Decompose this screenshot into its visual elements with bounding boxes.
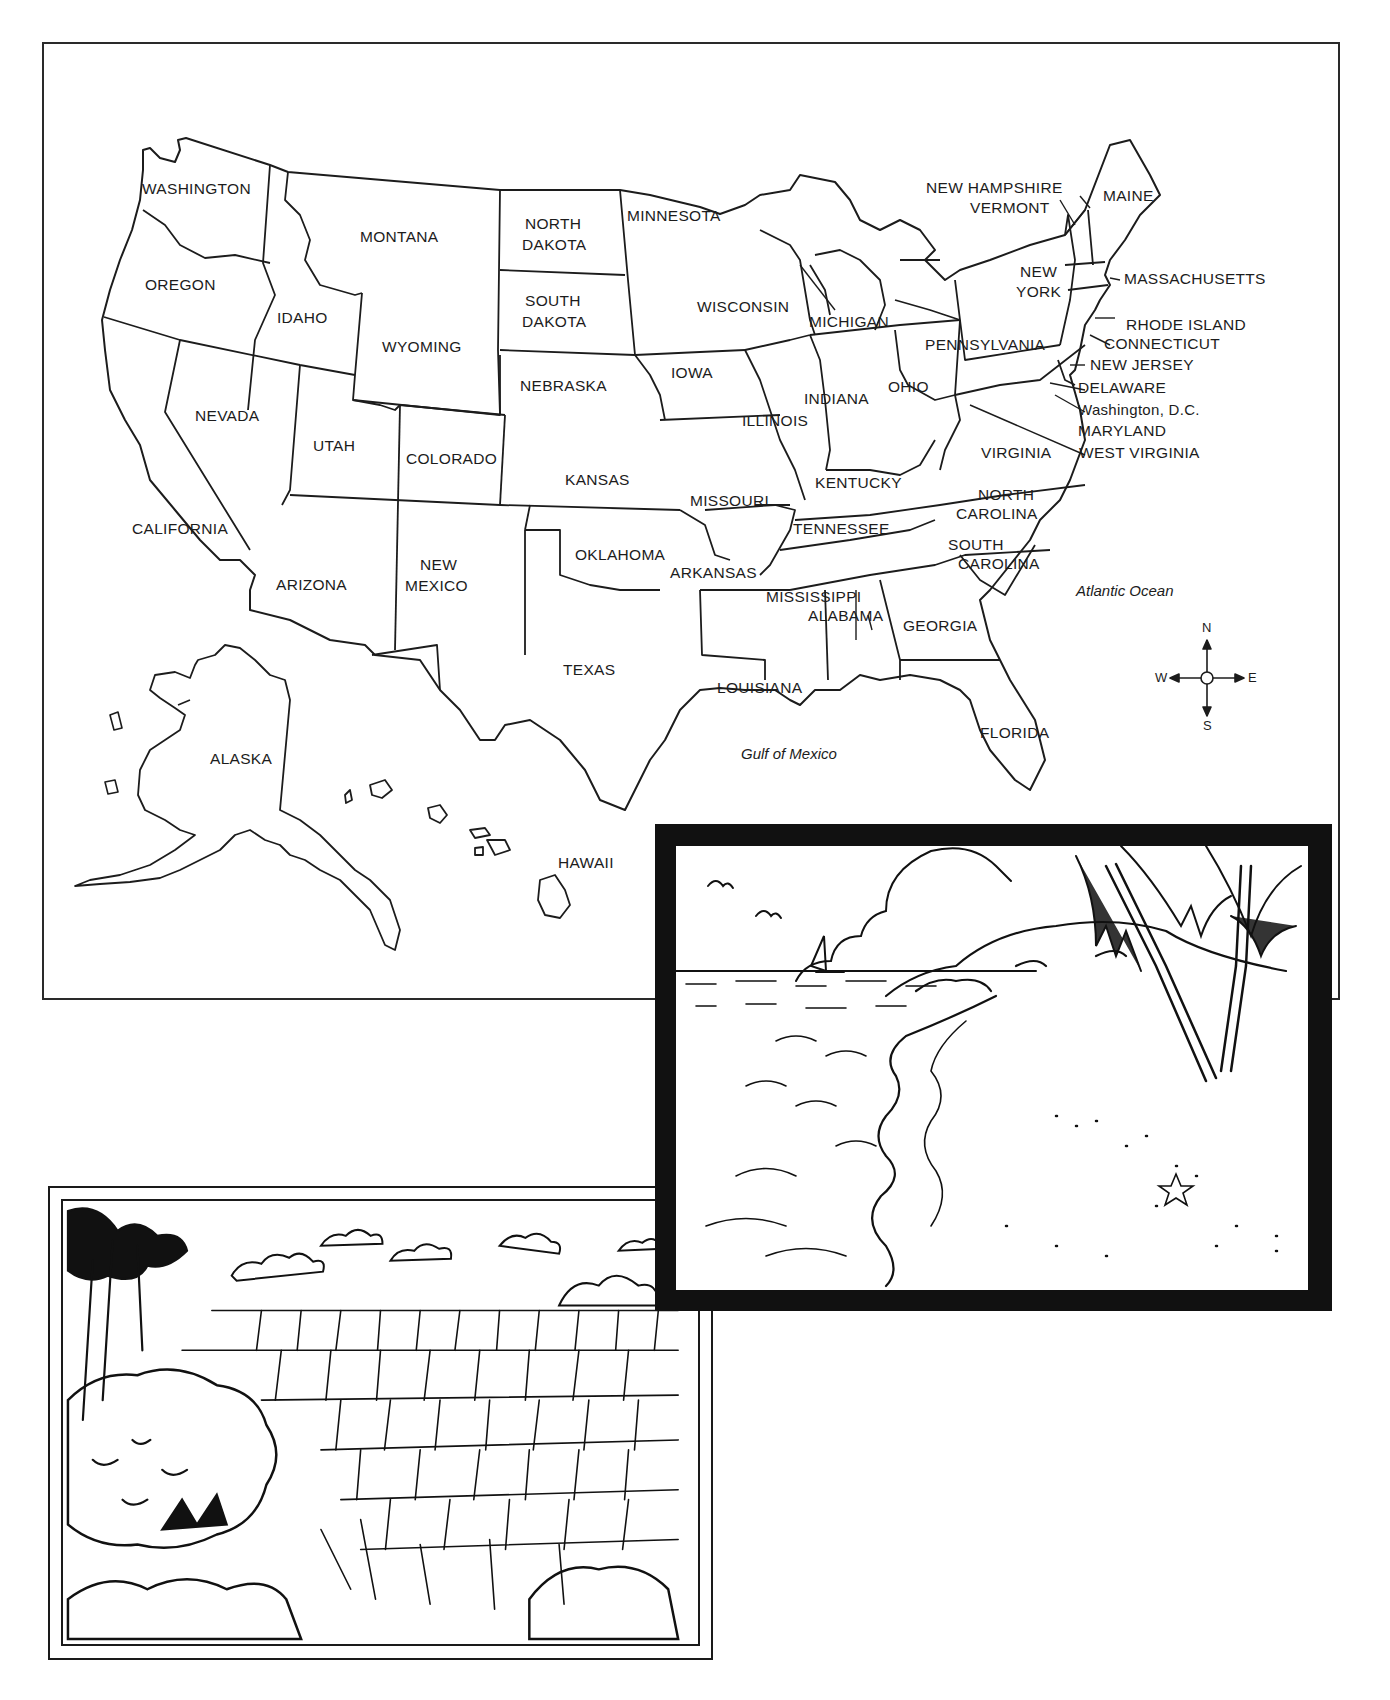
- label-connecticut: CONNECTICUT: [1104, 335, 1220, 353]
- label-florida: FLORIDA: [980, 724, 1049, 742]
- label-atlantic-ocean: Atlantic Ocean: [1076, 582, 1174, 599]
- palm-trees: [1076, 846, 1301, 1081]
- label-missouri: MISSOURI: [690, 492, 769, 510]
- label-rhode-island: RHODE ISLAND: [1126, 316, 1246, 334]
- label-washington-dc: Washington, D.C.: [1078, 401, 1200, 419]
- label-louisiana: LOUISIANA: [717, 679, 802, 697]
- label-delaware: DELAWARE: [1078, 379, 1166, 397]
- label-illinois: ILLINOIS: [742, 412, 808, 430]
- label-tennessee: TENNESSEE: [793, 520, 890, 538]
- label-south-carolina-line1: SOUTH: [948, 536, 1004, 554]
- label-massachusetts: MASSACHUSETTS: [1124, 270, 1266, 288]
- label-south-carolina-line2: CAROLINA: [958, 555, 1040, 573]
- label-ohio: OHIO: [888, 378, 929, 396]
- label-texas: TEXAS: [563, 661, 615, 679]
- label-south-dakota-line1: SOUTH: [525, 292, 581, 310]
- beach-illustration: [676, 846, 1308, 1290]
- starfish: [1159, 1174, 1193, 1205]
- label-oklahoma: OKLAHOMA: [575, 546, 665, 564]
- label-alabama: ALABAMA: [808, 607, 883, 625]
- clouds: [232, 1230, 663, 1306]
- label-wyoming: WYOMING: [382, 338, 462, 356]
- label-montana: MONTANA: [360, 228, 438, 246]
- label-north-carolina-line1: NORTH: [978, 486, 1034, 504]
- canyon-illustration-frame: [48, 1186, 713, 1660]
- label-california: CALIFORNIA: [132, 520, 228, 538]
- label-michigan: MICHIGAN: [809, 313, 889, 331]
- bird-2: [756, 911, 781, 918]
- label-indiana: INDIANA: [804, 390, 869, 408]
- beach-scene: [676, 846, 1308, 1290]
- canyon-illustration: [61, 1199, 700, 1646]
- label-colorado: COLORADO: [406, 450, 497, 468]
- compass-rose: [1170, 640, 1244, 716]
- label-kansas: KANSAS: [565, 471, 630, 489]
- beach-illustration-frame: [655, 824, 1332, 1311]
- compass-west-label: W: [1155, 670, 1167, 685]
- label-kentucky: KENTUCKY: [815, 474, 902, 492]
- label-new-mexico-line1: NEW: [420, 556, 457, 574]
- label-alaska: ALASKA: [210, 750, 272, 768]
- shoreline: [872, 996, 996, 1286]
- contiguous-us-outline: [102, 138, 1160, 810]
- label-north-dakota-line1: NORTH: [525, 215, 581, 233]
- label-new-jersey: NEW JERSEY: [1090, 356, 1194, 374]
- label-vermont: VERMONT: [970, 199, 1050, 217]
- label-new-york-line1: NEW: [1020, 263, 1057, 281]
- label-maine: MAINE: [1103, 187, 1154, 205]
- canyon-scene: [63, 1201, 698, 1644]
- label-west-virginia: WEST VIRGINIA: [1079, 444, 1200, 462]
- label-utah: UTAH: [313, 437, 355, 455]
- label-arizona: ARIZONA: [276, 576, 347, 594]
- label-oregon: OREGON: [145, 276, 216, 294]
- label-new-hampshire: NEW HAMPSHIRE: [926, 179, 1063, 197]
- label-new-mexico-line2: MEXICO: [405, 577, 468, 595]
- label-maryland: MARYLAND: [1078, 422, 1166, 440]
- headland-rocks: [886, 922, 1286, 996]
- cloud: [796, 848, 1011, 981]
- bird-1: [708, 881, 733, 888]
- compass-south-label: S: [1203, 718, 1212, 733]
- label-iowa: IOWA: [671, 364, 713, 382]
- compass-north-label: N: [1202, 620, 1211, 635]
- mesas: [182, 1311, 678, 1610]
- label-nevada: NEVADA: [195, 407, 259, 425]
- label-nebraska: NEBRASKA: [520, 377, 607, 395]
- label-washington: WASHINGTON: [142, 180, 251, 198]
- sailboat: [811, 936, 844, 972]
- label-new-york-line2: YORK: [1016, 283, 1061, 301]
- label-wisconsin: WISCONSIN: [697, 298, 789, 316]
- label-pennsylvania: PENNSYLVANIA: [925, 336, 1045, 354]
- shoreline-foam: [925, 1021, 966, 1226]
- label-south-dakota-line2: DAKOTA: [522, 313, 586, 331]
- label-minnesota: MINNESOTA: [627, 207, 721, 225]
- label-mississippi: MISSISSIPPI: [766, 588, 861, 606]
- hawaii-islands: [345, 780, 570, 918]
- label-arkansas: ARKANSAS: [670, 564, 757, 582]
- label-hawaii: HAWAII: [558, 854, 614, 872]
- label-gulf-of-mexico: Gulf of Mexico: [741, 745, 837, 762]
- label-virginia: VIRGINIA: [981, 444, 1051, 462]
- sand-dots: [1006, 1116, 1277, 1256]
- compass-east-label: E: [1248, 670, 1257, 685]
- label-idaho: IDAHO: [277, 309, 328, 327]
- sea-waves: [686, 981, 936, 1256]
- label-north-carolina-line2: CAROLINA: [956, 505, 1038, 523]
- label-north-dakota-line2: DAKOTA: [522, 236, 586, 254]
- label-georgia: GEORGIA: [903, 617, 977, 635]
